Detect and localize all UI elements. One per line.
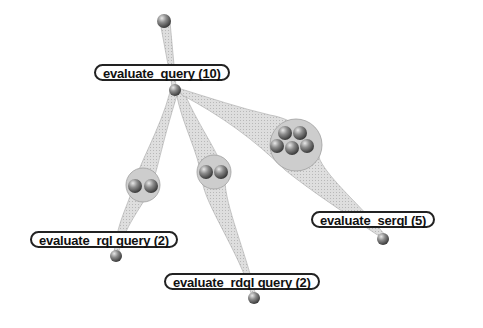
node-label-evaluate-query[interactable]: evaluate_query (10) [94, 64, 230, 81]
evaluate-rdql-node[interactable] [248, 292, 260, 304]
evaluate-query-node[interactable] [169, 84, 181, 96]
evaluate-rql-node[interactable] [110, 250, 122, 262]
evaluate-serql-node[interactable] [377, 233, 389, 245]
node-label-evaluate-rql[interactable]: evaluate_rql query (2) [30, 231, 178, 248]
root-node[interactable] [157, 14, 171, 28]
node-label-evaluate-rdql[interactable]: evaluate_rdql query (2) [164, 273, 320, 290]
node-label-evaluate-serql[interactable]: evaluate_serql (5) [311, 211, 435, 228]
